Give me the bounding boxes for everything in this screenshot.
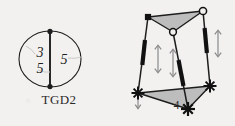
middle-leg-thick-segment [179,60,184,86]
chord-top-node [47,29,52,34]
right-leg-thick-segment [205,28,207,53]
smudge-left [26,46,35,54]
smudge-right [68,57,81,58]
chord-bottom-node [47,84,52,89]
top-mid-vertex-marker [170,29,177,36]
right-leg-motion-arrow [215,30,221,57]
top-right-vertex-marker [199,7,206,14]
middle-leg-motion-arrow [170,49,176,77]
left-leg-thick-segment [142,40,145,65]
label-left-top: 3 [36,45,44,60]
top-left-vertex-marker [145,14,151,20]
label-left-bottom: 5 [37,61,44,76]
figure-caption-tgd2: TGD2 [0,92,118,108]
figure-caption-4: 4 [118,98,235,113]
left-leg-motion-arrow [155,45,161,73]
figure-page: 3 5 5 TGD2 [0,0,235,126]
label-right: 5 [61,52,68,67]
